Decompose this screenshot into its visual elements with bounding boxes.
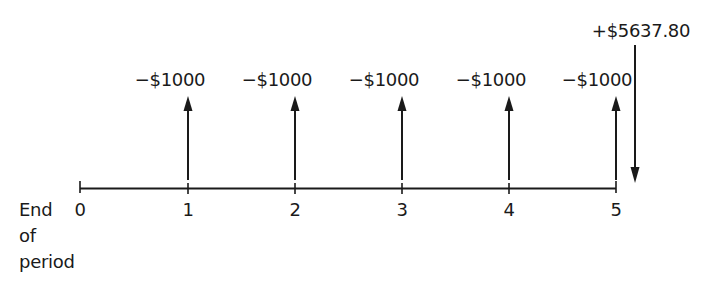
axis-label-line-3: period bbox=[19, 249, 75, 275]
period-label-5: 5 bbox=[610, 200, 621, 220]
period-label-2: 2 bbox=[289, 200, 300, 220]
period-label-1: 1 bbox=[182, 200, 193, 220]
payment-arrow-5-icon bbox=[612, 96, 621, 180]
receipt-label: +$5637.80 bbox=[592, 21, 690, 41]
payment-label-3: −$1000 bbox=[349, 70, 420, 90]
payment-label-1: −$1000 bbox=[135, 70, 206, 90]
payment-label-4: −$1000 bbox=[456, 70, 527, 90]
payment-arrow-3-icon bbox=[398, 96, 407, 180]
timeline-graphic bbox=[0, 0, 714, 282]
payment-arrow-2-icon bbox=[291, 96, 300, 180]
payment-label-2: −$1000 bbox=[242, 70, 313, 90]
payment-label-5: −$1000 bbox=[562, 70, 633, 90]
axis-label-line-2: of bbox=[19, 223, 36, 249]
axis-label-line-1: End bbox=[19, 197, 52, 223]
payment-arrow-1-icon bbox=[184, 96, 193, 180]
period-label-0: 0 bbox=[74, 200, 85, 220]
receipt-arrow-icon bbox=[631, 45, 640, 183]
period-label-3: 3 bbox=[396, 200, 407, 220]
period-label-4: 4 bbox=[503, 200, 514, 220]
payment-arrow-4-icon bbox=[505, 96, 514, 180]
